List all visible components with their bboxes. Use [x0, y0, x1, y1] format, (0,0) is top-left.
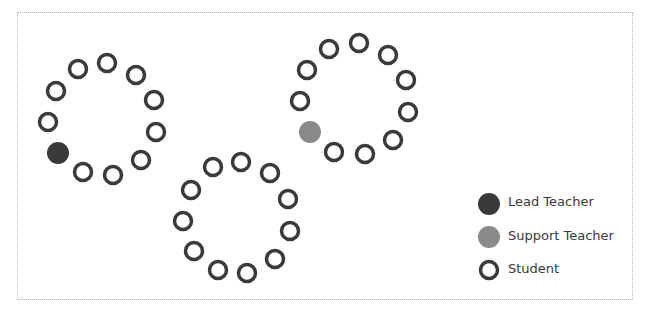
student-seat-icon [133, 152, 150, 169]
legend-student-icon [481, 262, 498, 279]
student-seat-icon [233, 154, 250, 171]
student-seat-icon [299, 62, 316, 79]
student-seat-icon [183, 182, 200, 199]
legend-label-lead: Lead Teacher [508, 194, 594, 209]
student-seat-icon [205, 159, 222, 176]
lead-teacher-icon [47, 142, 69, 164]
student-seat-icon [186, 243, 203, 260]
student-seat-icon [321, 41, 338, 58]
student-seat-icon [351, 35, 368, 52]
student-seat-icon [282, 223, 299, 240]
student-seat-icon [267, 251, 284, 268]
student-seat-icon [398, 72, 415, 89]
student-seat-icon [280, 191, 297, 208]
student-seat-icon [48, 83, 65, 100]
student-seat-icon [175, 213, 192, 230]
student-seat-icon [380, 47, 397, 64]
student-seat-icon [292, 93, 309, 110]
student-seat-icon [75, 164, 92, 181]
support-teacher-icon [299, 121, 321, 143]
student-seat-icon [99, 55, 116, 72]
student-seat-icon [148, 124, 165, 141]
legend-lead-icon [478, 193, 500, 215]
student-seat-icon [385, 132, 402, 149]
legend-label-student: Student [508, 261, 559, 276]
student-seat-icon [146, 92, 163, 109]
student-seat-icon [357, 146, 374, 163]
student-seat-icon [128, 67, 145, 84]
student-seat-icon [210, 262, 227, 279]
student-seat-icon [105, 167, 122, 184]
student-seat-icon [239, 265, 256, 282]
student-seat-icon [262, 165, 279, 182]
student-seat-icon [70, 61, 87, 78]
legend-support-icon [478, 226, 500, 248]
legend-label-support: Support Teacher [508, 228, 614, 243]
student-seat-icon [326, 144, 343, 161]
student-seat-icon [40, 114, 57, 131]
student-seat-icon [400, 104, 417, 121]
